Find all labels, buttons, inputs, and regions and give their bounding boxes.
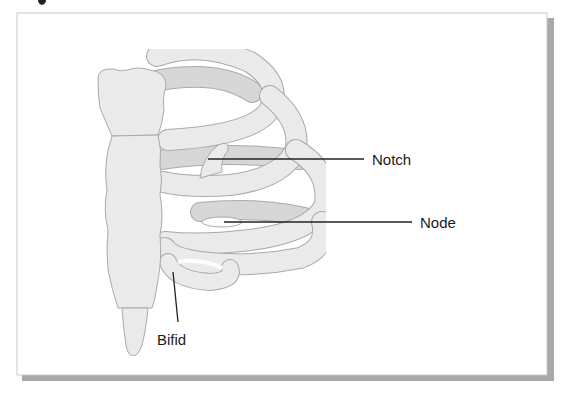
label-notch: Notch (372, 151, 411, 168)
sternum-body (105, 135, 162, 308)
label-bifid: Bifid (157, 331, 186, 348)
label-node: Node (420, 214, 456, 231)
manubrium (98, 68, 166, 136)
rib-anomalies-diagram: Notch Node Bifid (0, 0, 572, 396)
figure-panel (17, 13, 547, 375)
cropped-figure-label (38, 0, 46, 5)
